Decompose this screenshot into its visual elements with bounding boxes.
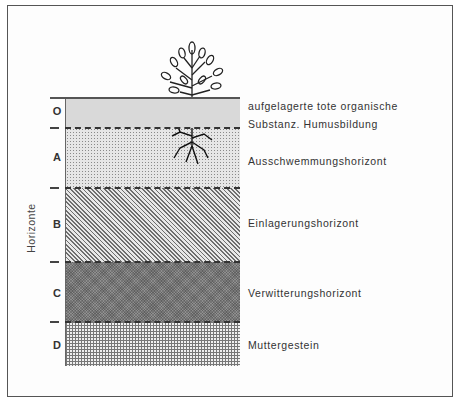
description-line: Substanz. Humusbildung — [248, 115, 398, 133]
horizon-d-layer — [65, 322, 240, 366]
horizon-o-layer — [65, 99, 240, 128]
tick — [50, 321, 59, 323]
tick — [50, 187, 59, 189]
description-line: aufgelagerte tote organische — [248, 97, 398, 115]
horizon-label-a: A — [51, 151, 63, 163]
boundary-o-a — [65, 127, 240, 129]
axis-title: Horizonte — [25, 193, 37, 263]
horizon-label-b: B — [51, 218, 63, 230]
horizon-c-description: Verwitterungshorizont — [248, 284, 362, 302]
horizon-label-d: D — [51, 339, 63, 351]
horizon-b-layer — [65, 188, 240, 262]
tick — [50, 261, 59, 263]
horizon-label-c: C — [51, 287, 63, 299]
horizon-a-description: Ausschwemmungshorizont — [248, 152, 387, 170]
boundary-b-c — [65, 261, 240, 263]
horizon-b-description: Einlagerungshorizont — [248, 214, 359, 232]
horizon-o-description: aufgelagerte tote organische Substanz. H… — [248, 97, 398, 133]
boundary-a-b — [65, 187, 240, 189]
horizon-c-layer — [65, 262, 240, 322]
boundary-c-d — [65, 321, 240, 323]
tick — [50, 127, 59, 129]
horizon-d-description: Muttergestein — [248, 336, 319, 354]
roots-icon — [150, 128, 260, 188]
horizon-label-o: O — [51, 105, 63, 117]
